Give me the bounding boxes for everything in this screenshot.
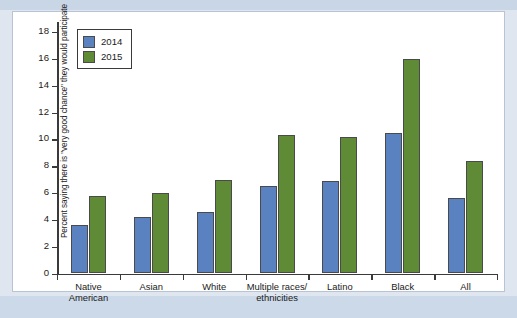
bar-2015-all[interactable]: [466, 161, 483, 274]
bar-2014-asian[interactable]: [134, 217, 151, 273]
x-tick-2: [183, 274, 184, 280]
bar-2014-latino[interactable]: [322, 181, 339, 274]
y-tick-label-10: 10: [38, 132, 49, 143]
y-tick-12: 12: [52, 113, 57, 114]
bar-2014-black[interactable]: [385, 133, 402, 274]
bar-2014-white[interactable]: [197, 212, 214, 274]
y-tick-label-16: 16: [38, 52, 49, 63]
x-axis-line: [57, 274, 497, 276]
x-tick-1: [120, 274, 121, 280]
x-tick-0: [57, 274, 58, 280]
bar-2015-white[interactable]: [215, 180, 232, 274]
legend-swatch-2014-icon: [83, 36, 95, 48]
legend-item-2014[interactable]: 2014: [83, 34, 122, 49]
x-category-line: All: [411, 281, 517, 292]
legend-item-2015[interactable]: 2015: [83, 49, 122, 64]
y-tick-2: 2: [52, 247, 57, 248]
y-tick-10: 10: [52, 139, 57, 140]
bar-2014-multiple-races-ethnicities[interactable]: [260, 186, 277, 273]
y-tick-label-4: 4: [44, 213, 49, 224]
bar-2015-black[interactable]: [403, 59, 420, 274]
scan-border-top: [0, 0, 517, 10]
bar-2015-multiple-races-ethnicities[interactable]: [278, 135, 295, 273]
legend-swatch-2015-icon: [83, 51, 95, 63]
x-tick-4: [308, 274, 309, 280]
x-category-label-6: All: [411, 281, 517, 292]
legend-label-2014: 2014: [101, 36, 122, 47]
y-tick-16: 16: [52, 59, 57, 60]
y-tick-6: 6: [52, 193, 57, 194]
y-tick-4: 4: [52, 220, 57, 221]
bar-2014-all[interactable]: [448, 198, 465, 273]
y-tick-14: 14: [52, 86, 57, 87]
bar-2015-asian[interactable]: [152, 193, 169, 274]
y-tick-label-0: 0: [44, 267, 49, 278]
y-tick-8: 8: [52, 166, 57, 167]
y-tick-label-2: 2: [44, 240, 49, 251]
legend-label-2015: 2015: [101, 51, 122, 62]
x-tick-7: [497, 274, 498, 280]
chart-legend: 2014 2015: [77, 29, 132, 69]
x-category-line: ethnicities: [222, 292, 332, 303]
x-category-line: American: [33, 292, 143, 303]
y-tick-label-12: 12: [38, 106, 49, 117]
x-tick-6: [434, 274, 435, 280]
x-tick-3: [246, 274, 247, 280]
bar-2015-native-american[interactable]: [89, 196, 106, 274]
chart-plot-card: Percent saying there is "very good chanc…: [12, 11, 505, 292]
x-tick-5: [371, 274, 372, 280]
figure-canvas: Percent saying there is "very good chanc…: [0, 0, 517, 318]
y-tick-label-14: 14: [38, 79, 49, 90]
y-tick-label-8: 8: [44, 159, 49, 170]
y-tick-label-18: 18: [38, 25, 49, 36]
y-tick-18: 18: [52, 32, 57, 33]
y-tick-label-6: 6: [44, 186, 49, 197]
y-axis-line: [57, 22, 59, 275]
bar-2014-native-american[interactable]: [71, 225, 88, 273]
bar-2015-latino[interactable]: [340, 137, 357, 274]
